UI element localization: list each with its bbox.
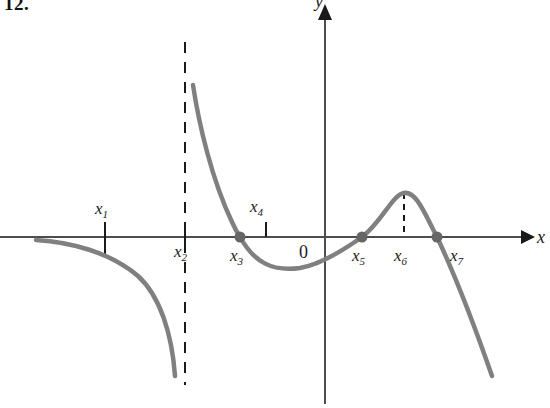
label-x3: x3 xyxy=(230,247,243,267)
axis-label-x: x xyxy=(537,228,545,246)
origin-label: 0 xyxy=(299,243,308,261)
label-x2-base: x xyxy=(174,242,182,261)
point-marker-x5 xyxy=(357,232,368,243)
label-x7-base: x xyxy=(450,246,458,265)
y-axis xyxy=(318,4,332,404)
label-x5-sub: 5 xyxy=(360,255,366,267)
graph-canvas xyxy=(0,0,550,408)
label-x7: x7 xyxy=(450,247,463,267)
label-x2-sub: 2 xyxy=(182,251,188,263)
x-axis xyxy=(0,230,535,244)
label-x1: x1 xyxy=(95,200,108,220)
figure-container: 12. x y 0 x1 x2 x3 xyxy=(0,0,550,408)
label-x6: x6 xyxy=(394,247,407,267)
curve-left-branch xyxy=(36,240,175,376)
label-x1-base: x xyxy=(95,199,103,218)
label-x2: x2 xyxy=(174,243,187,263)
label-x6-base: x xyxy=(394,246,402,265)
label-x3-base: x xyxy=(230,246,238,265)
point-marker-x3 xyxy=(235,232,246,243)
label-x5: x5 xyxy=(352,247,365,267)
label-x4: x4 xyxy=(250,198,263,218)
curve-main-branch xyxy=(193,85,492,376)
label-x4-base: x xyxy=(250,197,258,216)
point-marker-x7 xyxy=(432,232,443,243)
label-x7-sub: 7 xyxy=(458,255,464,267)
axis-label-y: y xyxy=(315,0,323,10)
label-x6-sub: 6 xyxy=(402,255,408,267)
label-x4-sub: 4 xyxy=(258,206,264,218)
label-x3-sub: 3 xyxy=(238,255,244,267)
label-x5-base: x xyxy=(352,246,360,265)
label-x1-sub: 1 xyxy=(103,208,109,220)
